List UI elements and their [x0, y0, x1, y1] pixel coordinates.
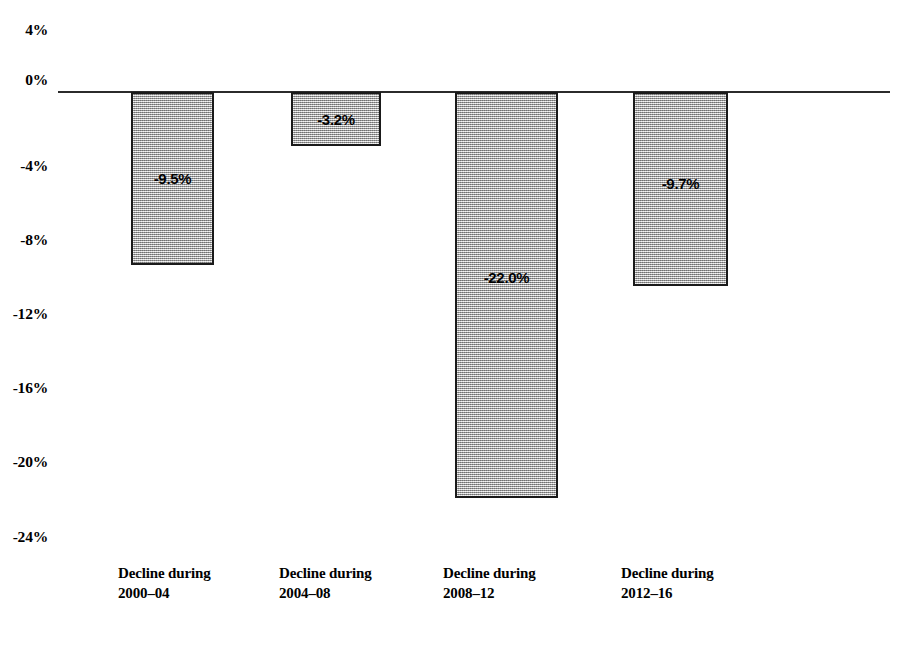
x-category-line1-2008-12: Decline during: [443, 564, 536, 584]
bar-value-label-2012-16: -9.7%: [635, 175, 726, 192]
y-tick-label-4: 4%: [0, 22, 58, 38]
x-category-line1-2012-16: Decline during: [621, 564, 714, 584]
y-tick-label-0: 0%: [0, 72, 58, 88]
x-category-line1-2004-08: Decline during: [279, 564, 372, 584]
y-tick-label-neg20: -20%: [0, 454, 58, 470]
x-category-label-2000-04: Decline during 2000–04: [118, 564, 211, 604]
x-category-line1-2000-04: Decline during: [118, 564, 211, 584]
y-tick-label-neg8: -8%: [0, 232, 58, 248]
x-category-label-2012-16: Decline during 2012–16: [621, 564, 714, 604]
plot-area: 4% 0% -4% -8% -12% -16% -20% -24% -9.5% …: [0, 0, 912, 650]
x-category-line2-2008-12: 2008–12: [443, 584, 536, 604]
y-tick-label-neg4: -4%: [0, 158, 58, 174]
bar-value-label-2008-12: -22.0%: [457, 269, 556, 286]
bar-value-label-2000-04: -9.5%: [133, 170, 212, 187]
bar-value-label-2004-08: -3.2%: [293, 111, 379, 128]
y-tick-label-neg16: -16%: [0, 380, 58, 396]
y-tick-label-neg24: -24%: [0, 529, 58, 545]
x-category-label-2008-12: Decline during 2008–12: [443, 564, 536, 604]
bar-chart: 4% 0% -4% -8% -12% -16% -20% -24% -9.5% …: [0, 0, 912, 650]
bar-2004-08[interactable]: -3.2%: [291, 92, 381, 146]
y-tick-label-neg12: -12%: [0, 306, 58, 322]
x-category-label-2004-08: Decline during 2004–08: [279, 564, 372, 604]
bar-2008-12[interactable]: -22.0%: [455, 92, 558, 498]
x-category-line2-2012-16: 2012–16: [621, 584, 714, 604]
x-category-line2-2004-08: 2004–08: [279, 584, 372, 604]
bar-2012-16[interactable]: -9.7%: [633, 92, 728, 286]
x-category-line2-2000-04: 2000–04: [118, 584, 211, 604]
bar-2000-04[interactable]: -9.5%: [131, 92, 214, 265]
